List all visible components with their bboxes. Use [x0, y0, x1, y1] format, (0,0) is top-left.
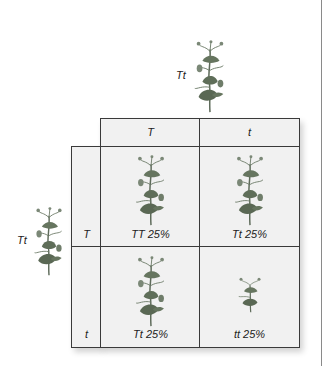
- row-header-t: t: [71, 246, 102, 348]
- top-parent-plant-icon: [190, 38, 230, 114]
- offspring-cell-TT: TT 25%: [100, 146, 201, 247]
- row-header-T: T: [71, 146, 102, 247]
- tall-plant-icon: [131, 153, 171, 227]
- offspring-cell-Tt-1: Tt 25%: [199, 146, 300, 247]
- tall-plant-icon: [131, 254, 171, 328]
- tall-plant-icon: [230, 153, 270, 227]
- short-plant-icon: [235, 275, 265, 315]
- column-header-label: t: [200, 126, 299, 138]
- row-header-label: T: [72, 228, 101, 240]
- page-edge-rule: [321, 0, 322, 366]
- column-header-T: T: [100, 118, 201, 147]
- column-header-t: t: [199, 118, 300, 147]
- offspring-label: tt 25%: [200, 328, 299, 340]
- top-parent-genotype: Tt: [176, 69, 186, 81]
- offspring-label: TT 25%: [101, 228, 200, 240]
- left-parent-plant-icon: [30, 205, 68, 277]
- offspring-cell-tt: tt 25%: [199, 246, 300, 348]
- row-header-label: t: [72, 328, 101, 340]
- offspring-label: Tt 25%: [101, 328, 200, 340]
- offspring-label: Tt 25%: [200, 228, 299, 240]
- left-parent-genotype: Tt: [17, 234, 27, 246]
- offspring-cell-Tt-2: Tt 25%: [100, 246, 201, 348]
- column-header-label: T: [101, 126, 200, 138]
